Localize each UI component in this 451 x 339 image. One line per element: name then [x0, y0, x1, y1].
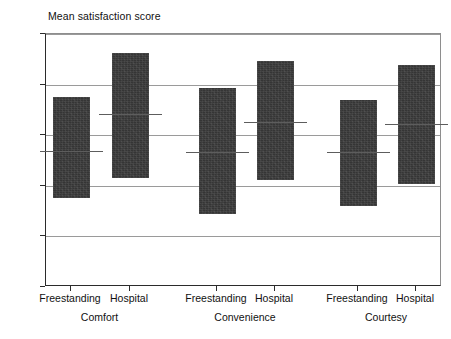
x-group-label-courtesy: Courtesy: [365, 311, 407, 323]
x-tick-mark-3: [274, 286, 275, 291]
y-tick-mark-0: [40, 286, 45, 287]
median-line-convenience-freestanding: [186, 152, 249, 153]
y-tick-mark-2.5: [40, 33, 45, 34]
gridline-2.5: [46, 34, 440, 35]
gridline-1.5: [46, 135, 440, 136]
x-tick-mark-2: [216, 286, 217, 291]
median-line-convenience-hospital: [244, 122, 307, 123]
x-tick-label-hospital-5: Hospital: [396, 292, 434, 304]
median-line-comfort-hospital: [99, 114, 162, 115]
x-tick-mark-4: [357, 286, 358, 291]
gridline-1: [46, 186, 440, 187]
bar-comfort-freestanding: [53, 97, 90, 198]
chart-canvas: Mean satisfaction score 00.511.522.5 Fre…: [0, 0, 451, 339]
x-group-label-comfort: Comfort: [81, 311, 118, 323]
x-tick-label-hospital-1: Hospital: [110, 292, 148, 304]
x-group-label-convenience: Convenience: [214, 311, 275, 323]
y-tick-mark-1: [40, 185, 45, 186]
x-tick-mark-0: [70, 286, 71, 291]
bar-convenience-hospital: [257, 61, 294, 179]
y-tick-mark-1.5: [40, 134, 45, 135]
gridline-0.5: [46, 236, 440, 237]
bar-comfort-hospital: [112, 53, 149, 177]
x-tick-label-hospital-3: Hospital: [255, 292, 293, 304]
median-line-courtesy-freestanding: [327, 152, 390, 153]
median-line-comfort-freestanding: [40, 151, 103, 152]
x-tick-mark-5: [415, 286, 416, 291]
x-tick-label-freestanding-2: Freestanding: [185, 292, 246, 304]
plot-area: [45, 33, 441, 286]
gridline-2: [46, 85, 440, 86]
y-tick-mark-0.5: [40, 235, 45, 236]
y-axis-title: Mean satisfaction score: [48, 10, 161, 22]
x-tick-label-freestanding-0: Freestanding: [39, 292, 100, 304]
x-tick-mark-1: [129, 286, 130, 291]
x-tick-label-freestanding-4: Freestanding: [326, 292, 387, 304]
median-line-courtesy-hospital: [385, 124, 448, 125]
bar-convenience-freestanding: [199, 88, 236, 215]
y-tick-mark-2: [40, 84, 45, 85]
